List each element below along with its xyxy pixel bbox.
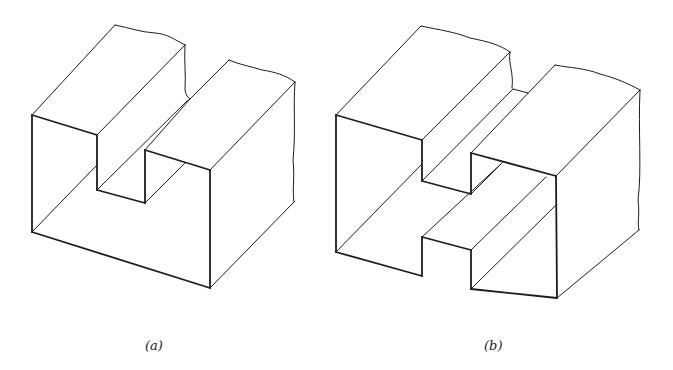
figure-b-drawing xyxy=(336,26,640,298)
figure-a-drawing xyxy=(32,25,295,288)
diagram-canvas xyxy=(0,0,673,370)
figure-b-caption: (b) xyxy=(484,338,502,353)
figure-a-caption: (a) xyxy=(145,338,163,353)
